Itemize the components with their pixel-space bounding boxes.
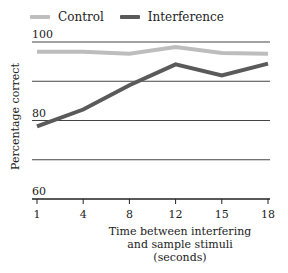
x-tick-label: 18 (261, 208, 275, 221)
x-tick-label: 12 (169, 208, 183, 221)
x-axis-title: Time between interfering and sample stim… (90, 225, 270, 264)
x-axis-title-line-2: and sample stimuli (90, 238, 270, 251)
x-tick-label: 15 (215, 208, 229, 221)
x-axis-title-line-1: Time between interfering (90, 225, 270, 238)
series-line-interference (37, 64, 268, 127)
x-tick-label: 1 (34, 208, 41, 221)
y-tick-label: 80 (32, 107, 46, 120)
x-tick-label: 4 (80, 208, 87, 221)
x-axis-title-line-3: (seconds) (90, 251, 270, 264)
x-tick-label: 8 (126, 208, 133, 221)
y-tick-label: 60 (32, 185, 46, 198)
y-tick-label: 100 (32, 28, 53, 41)
y-axis-title: Percentage correct (9, 63, 22, 170)
series-line-control (37, 47, 268, 54)
